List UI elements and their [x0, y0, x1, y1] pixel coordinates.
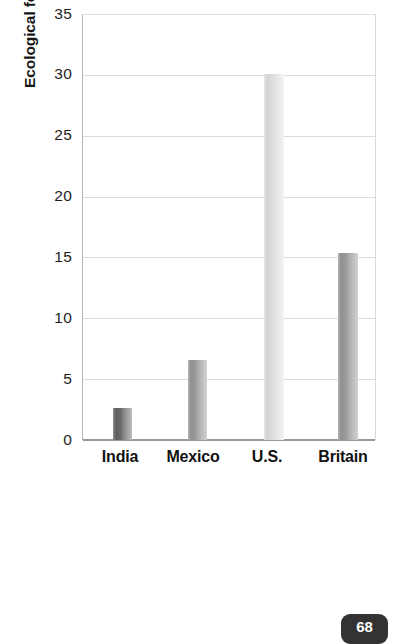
y-tick-label-0: 0	[0, 431, 72, 449]
y-tick-label-35: 35	[0, 5, 72, 23]
y-tick-label-15: 15	[0, 248, 72, 266]
x-tick-label-india: India	[82, 448, 158, 466]
page-number-badge: 68	[341, 614, 388, 644]
bar-mexico	[188, 360, 207, 440]
gridline-35	[83, 14, 375, 15]
gridline-10	[83, 318, 375, 319]
y-tick-label-30: 30	[0, 65, 72, 83]
gridline-5	[83, 379, 375, 380]
x-tick-label-mexico: Mexico	[152, 448, 234, 466]
x-tick-label-us: U.S.	[233, 448, 301, 466]
bar-us	[264, 74, 284, 440]
y-tick-label-20: 20	[0, 187, 72, 205]
bar-britain	[338, 253, 358, 440]
plot-inner	[83, 14, 375, 440]
y-tick-label-5: 5	[0, 370, 72, 388]
gridline-25	[83, 136, 375, 137]
y-tick-label-25: 25	[0, 126, 72, 144]
gridline-20	[83, 197, 375, 198]
plot-area	[82, 14, 376, 440]
bar-india	[113, 408, 132, 440]
gridline-15	[83, 257, 375, 258]
gridline-30	[83, 75, 375, 76]
x-tick-label-britain: Britain	[300, 448, 386, 466]
y-tick-label-10: 10	[0, 309, 72, 327]
